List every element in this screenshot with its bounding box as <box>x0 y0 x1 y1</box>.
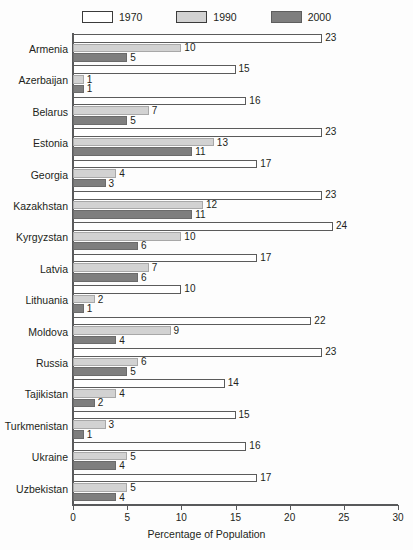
bar-group: Russia2365 <box>0 348 413 379</box>
bar-moldova-1970 <box>73 317 311 326</box>
bar-belarus-1970 <box>73 97 246 106</box>
category-label-moldova: Moldova <box>28 326 68 338</box>
bar-turkmenistan-1990 <box>73 420 106 429</box>
bar-latvia-2000 <box>73 273 138 282</box>
bar-group: Turkmenistan1531 <box>0 411 413 442</box>
bar-group: Estonia231311 <box>0 128 413 159</box>
x-tick-20 <box>290 505 291 510</box>
bar-group: Kazakhstan231211 <box>0 191 413 222</box>
value-label-georgia-1970: 17 <box>257 160 271 169</box>
bar-georgia-2000 <box>73 179 106 188</box>
bar-group: Georgia1743 <box>0 160 413 191</box>
bar-armenia-1970 <box>73 34 322 43</box>
bar-group: Lithuania1021 <box>0 285 413 316</box>
bar-russia-1970 <box>73 348 322 357</box>
x-tick-label-5: 5 <box>124 512 130 523</box>
bar-lithuania-2000 <box>73 304 84 313</box>
value-label-russia-1990: 6 <box>138 358 147 367</box>
category-label-azerbaijan: Azerbaijan <box>18 74 68 86</box>
bar-belarus-2000 <box>73 116 127 125</box>
bar-georgia-1990 <box>73 169 116 178</box>
value-label-lithuania-1990: 2 <box>95 296 104 305</box>
category-label-kazakhstan: Kazakhstan <box>13 200 68 212</box>
bar-armenia-2000 <box>73 53 127 62</box>
x-tick-label-15: 15 <box>230 512 241 523</box>
value-label-turkmenistan-1970: 15 <box>236 411 250 420</box>
x-tick-10 <box>181 505 182 510</box>
x-tick-label-30: 30 <box>392 512 403 523</box>
value-label-kyrgyzstan-2000: 6 <box>138 242 147 251</box>
bar-georgia-1970 <box>73 160 257 169</box>
value-label-lithuania-2000: 1 <box>84 305 93 314</box>
bar-lithuania-1990 <box>73 295 95 304</box>
value-label-ukraine-1970: 16 <box>246 442 260 451</box>
value-label-estonia-1970: 23 <box>322 128 336 137</box>
value-label-latvia-1970: 17 <box>257 254 271 263</box>
value-label-latvia-2000: 6 <box>138 274 147 283</box>
category-label-russia: Russia <box>36 357 68 369</box>
category-label-uzbekistan: Uzbekistan <box>16 483 68 495</box>
bar-group: Latvia1776 <box>0 254 413 285</box>
bar-kazakhstan-1990 <box>73 201 203 210</box>
value-label-kazakhstan-2000: 11 <box>192 211 205 220</box>
bar-estonia-1970 <box>73 128 322 137</box>
bar-ukraine-1990 <box>73 452 127 461</box>
plot-area: 051015202530 Armenia23105Azerbaijan1511B… <box>0 0 413 550</box>
bar-azerbaijan-1970 <box>73 65 236 74</box>
value-label-uzbekistan-1990: 5 <box>127 484 136 493</box>
bar-latvia-1990 <box>73 263 149 272</box>
x-tick-5 <box>127 505 128 510</box>
bar-group: Belarus1675 <box>0 97 413 128</box>
category-label-tajikistan: Tajikistan <box>25 388 68 400</box>
x-tick-25 <box>344 505 345 510</box>
bar-lithuania-1970 <box>73 285 181 294</box>
value-label-moldova-2000: 4 <box>116 337 125 346</box>
bar-group: Azerbaijan1511 <box>0 65 413 96</box>
category-label-kyrgyzstan: Kyrgyzstan <box>16 231 68 243</box>
bar-armenia-1990 <box>73 44 181 53</box>
bar-kyrgyzstan-1970 <box>73 222 333 231</box>
value-label-georgia-1990: 4 <box>116 170 125 179</box>
bar-group: Tajikistan1442 <box>0 379 413 410</box>
value-label-russia-1970: 23 <box>322 348 336 357</box>
value-label-belarus-1990: 7 <box>149 107 158 116</box>
bar-moldova-2000 <box>73 336 116 345</box>
bar-kazakhstan-1970 <box>73 191 322 200</box>
value-label-tajikistan-1970: 14 <box>225 379 239 388</box>
value-label-kyrgyzstan-1970: 24 <box>333 222 347 231</box>
value-label-armenia-2000: 5 <box>127 54 136 63</box>
bar-group: Uzbekistan1754 <box>0 474 413 505</box>
category-label-turkmenistan: Turkmenistan <box>5 420 68 432</box>
bar-ukraine-2000 <box>73 461 116 470</box>
bar-moldova-1990 <box>73 326 171 335</box>
bar-uzbekistan-1970 <box>73 474 257 483</box>
value-label-moldova-1970: 22 <box>311 317 325 326</box>
bar-turkmenistan-1970 <box>73 411 236 420</box>
value-label-belarus-1970: 16 <box>246 97 260 106</box>
x-tick-0 <box>73 505 74 510</box>
value-label-russia-2000: 5 <box>127 368 136 377</box>
bar-kazakhstan-2000 <box>73 210 192 219</box>
bar-latvia-1970 <box>73 254 257 263</box>
bar-group: Kyrgyzstan24106 <box>0 222 413 253</box>
category-label-estonia: Estonia <box>33 137 68 149</box>
value-label-azerbaijan-1970: 15 <box>236 65 250 74</box>
bar-azerbaijan-2000 <box>73 85 84 94</box>
bar-estonia-2000 <box>73 147 192 156</box>
value-label-turkmenistan-2000: 1 <box>84 431 93 440</box>
category-label-ukraine: Ukraine <box>32 451 68 463</box>
value-label-armenia-1970: 23 <box>322 34 336 43</box>
value-label-latvia-1990: 7 <box>149 264 158 273</box>
bar-russia-2000 <box>73 367 127 376</box>
value-label-ukraine-1990: 5 <box>127 453 136 462</box>
bar-kyrgyzstan-2000 <box>73 242 138 251</box>
bar-uzbekistan-1990 <box>73 483 127 492</box>
bar-group: Moldova2294 <box>0 317 413 348</box>
value-label-kyrgyzstan-1990: 10 <box>181 233 195 242</box>
bar-turkmenistan-2000 <box>73 430 84 439</box>
x-tick-15 <box>236 505 237 510</box>
category-label-lithuania: Lithuania <box>25 294 68 306</box>
bar-tajikistan-2000 <box>73 399 95 408</box>
value-label-georgia-2000: 3 <box>106 180 115 189</box>
value-label-turkmenistan-1990: 3 <box>106 421 115 430</box>
